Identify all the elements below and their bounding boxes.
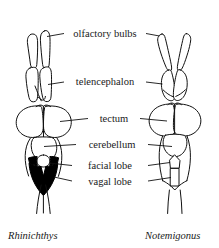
- label-cerebellum: cerebellum: [89, 139, 136, 150]
- leader-olfactory-bulbs-right: [146, 34, 160, 37]
- telencephalon-right-lobe-right-specimen: [173, 70, 187, 101]
- label-group: olfactory bulbs telencephalon tectum cer…: [73, 28, 136, 187]
- specimen-rhinichthys: [16, 31, 71, 214]
- medulla-wall-left-right-specimen: [159, 136, 163, 181]
- tectum-right-lobe: [43, 106, 71, 138]
- telencephalon-left-lobe: [26, 67, 38, 102]
- species-name-rhinichthys: Rhinichthys: [7, 230, 58, 241]
- label-facial-lobe: facial lobe: [88, 160, 132, 171]
- label-telencephalon: telencephalon: [76, 76, 135, 87]
- leader-vagal-lobe-left: [54, 177, 72, 181]
- tectum-right-lobe-right-specimen: [173, 104, 200, 136]
- species-name-notemigonus: Notemigonus: [144, 230, 200, 241]
- leader-vagal-lobe-right: [148, 178, 171, 182]
- cerebellum-right-specimen: [163, 134, 187, 156]
- tectum-left-lobe: [16, 106, 43, 138]
- spinal-cord-left-edge-right-specimen: [168, 190, 170, 214]
- vagal-lobe-right-specimen: [171, 168, 179, 186]
- leader-lines: [44, 34, 172, 182]
- facial-lobe: [37, 155, 50, 167]
- label-olfactory-bulbs: olfactory bulbs: [73, 28, 136, 39]
- specimen-notemigonus: [149, 34, 201, 214]
- label-vagal-lobe: vagal lobe: [88, 176, 132, 187]
- brain-comparison-figure: olfactory bulbs telencephalon tectum cer…: [0, 0, 219, 248]
- vagal-lobe-posterior-mass: [29, 163, 58, 195]
- facial-lobe-right-specimen: [170, 155, 180, 168]
- olfactory-bulb-left-outer: [27, 34, 37, 68]
- label-tectum: tectum: [100, 113, 129, 124]
- spinal-cord-right-edge-right-specimen: [180, 190, 182, 214]
- olfactory-bulb-right-outer-right-specimen: [177, 34, 190, 71]
- species-name-group: Rhinichthys Notemigonus: [7, 230, 200, 241]
- leader-telencephalon-right: [146, 82, 163, 84]
- olfactory-bulb-left-outer-right-specimen: [158, 34, 172, 71]
